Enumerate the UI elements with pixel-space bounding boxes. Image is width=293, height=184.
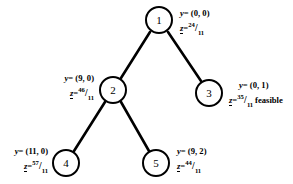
node-2-z-denominator: 11 <box>88 94 94 101</box>
node-3-z-numerator: 35 <box>237 93 244 100</box>
node-2-z-fraction: 46/11 <box>78 84 94 103</box>
node-4-y-value: = (11, 0) <box>19 146 48 156</box>
node-2-z-line: z=46/11 <box>36 84 94 103</box>
node-2-y-value: = (9, 0) <box>68 73 94 83</box>
node-5-y-line: y= (9, 2) <box>177 145 207 157</box>
node-3-feasible-note: feasible <box>253 95 283 105</box>
tree-node-4[interactable]: 4 <box>52 149 80 177</box>
node-4-z-numerator: 57 <box>32 159 39 166</box>
node-1-y-value: = (0, 0) <box>184 8 210 18</box>
node-5-z-numerator: 44 <box>185 159 192 166</box>
tree-node-1-label: 1 <box>156 15 162 26</box>
node-5-z-denominator: 11 <box>195 167 201 174</box>
node-3-z-line: z=35/11feasible <box>229 91 283 110</box>
node-2-annotation: y= (9, 0) z=46/11 <box>36 72 94 103</box>
node-1-z-line: z=24/11 <box>180 19 210 38</box>
node-1-annotation: y= (0, 0) z=24/11 <box>180 7 210 38</box>
tree-node-2-label: 2 <box>110 85 116 96</box>
tree-node-3[interactable]: 3 <box>195 79 223 107</box>
node-3-annotation: y= (0, 1) z=35/11feasible <box>229 79 283 110</box>
edge-2-5 <box>121 102 149 151</box>
node-5-y-value: = (9, 2) <box>181 146 207 156</box>
edge-2-4 <box>74 102 105 151</box>
node-1-y-line: y= (0, 0) <box>180 7 210 19</box>
node-3-y-value: = (0, 1) <box>243 80 269 90</box>
node-5-z-line: z=44/11 <box>177 157 207 176</box>
node-2-y-line: y= (9, 0) <box>36 72 94 84</box>
edge-1-3 <box>168 32 201 81</box>
node-4-y-line: y= (11, 0) <box>0 145 48 157</box>
tree-node-5-label: 5 <box>153 158 159 169</box>
node-1-z-denominator: 11 <box>198 29 204 36</box>
node-3-z-fraction: 35/11 <box>237 91 253 110</box>
node-2-z-numerator: 46 <box>78 86 85 93</box>
node-5-annotation: y= (9, 2) z=44/11 <box>177 145 207 176</box>
tree-node-3-label: 3 <box>206 88 212 99</box>
edge-1-2 <box>121 32 150 78</box>
node-4-annotation: y= (11, 0) z=57/11 <box>0 145 48 176</box>
branch-and-bound-tree-diagram: 1 y= (0, 0) z=24/11 2 y= (9, 0) z=46/11 … <box>0 0 293 184</box>
node-4-z-line: z=57/11 <box>0 157 48 176</box>
node-4-z-fraction: 57/11 <box>32 157 48 176</box>
node-1-z-numerator: 24 <box>188 21 195 28</box>
tree-node-2[interactable]: 2 <box>99 76 127 104</box>
node-3-z-denominator: 11 <box>247 101 253 108</box>
node-1-z-fraction: 24/11 <box>188 19 204 38</box>
tree-node-1[interactable]: 1 <box>145 6 173 34</box>
node-5-z-fraction: 44/11 <box>185 157 201 176</box>
node-3-y-line: y= (0, 1) <box>229 79 283 91</box>
tree-node-5[interactable]: 5 <box>142 149 170 177</box>
node-4-z-denominator: 11 <box>42 167 48 174</box>
tree-node-4-label: 4 <box>63 158 69 169</box>
